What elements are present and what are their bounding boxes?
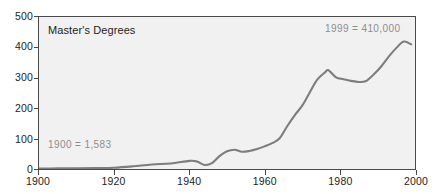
y-tick-label-0: 0 bbox=[3, 164, 33, 174]
x-tick-label-1940: 1940 bbox=[159, 176, 219, 187]
x-tick-label-2000: 2000 bbox=[386, 176, 445, 187]
y-tick-label-300: 300 bbox=[3, 72, 33, 82]
x-tick-label-1980: 1980 bbox=[310, 176, 370, 187]
x-tick-label-1900: 1900 bbox=[8, 176, 68, 187]
y-tick-label-500: 500 bbox=[3, 11, 33, 21]
masters-degrees-chart: 500 400 300 200 100 0 1900 1920 1940 196… bbox=[0, 0, 445, 194]
annotation-end-value: 1999 = 410,000 bbox=[325, 23, 400, 34]
y-tick-label-400: 400 bbox=[3, 41, 33, 51]
y-tick-label-100: 100 bbox=[3, 134, 33, 144]
y-tick-label-200: 200 bbox=[3, 103, 33, 113]
x-tick-label-1960: 1960 bbox=[235, 176, 295, 187]
annotation-start-value: 1900 = 1,583 bbox=[48, 139, 111, 150]
chart-title: Master's Degrees bbox=[48, 24, 135, 36]
y-axis-labels: 500 400 300 200 100 0 bbox=[0, 0, 33, 194]
x-tick-label-1920: 1920 bbox=[84, 176, 144, 187]
